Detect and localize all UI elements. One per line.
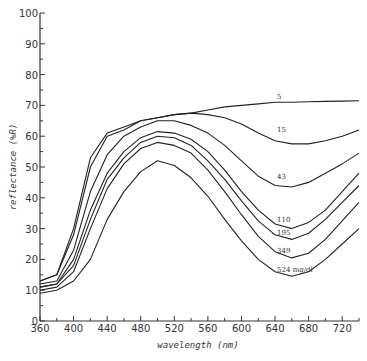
y-axis-title: reflectance (%R) [8,124,18,211]
x-tick-label: 400 [64,323,83,334]
curve-label: 43 [277,173,286,181]
y-tick-label: 80 [25,70,38,81]
x-axis-title: wavelength (nm) [157,340,238,350]
curves [40,101,359,293]
y-tick-label: 100 [19,8,38,19]
y-tick-label: 10 [25,285,38,296]
curve-5 [40,101,359,281]
curve-label: 15 [277,126,286,134]
y-tick-label: 90 [25,39,38,50]
x-tick-label: 640 [266,323,285,334]
x-tick-label: 600 [232,323,251,334]
curve-label: 524 mg/dl [277,266,314,274]
curve-label: 195 [277,229,290,237]
axes: 3604004404805205606006406807200102030405… [19,8,359,334]
x-tick-label: 680 [299,323,318,334]
x-tick-label: 720 [333,323,352,334]
curve-110 [40,132,359,288]
y-tick-label: 40 [25,193,38,204]
y-tick-label: 0 [32,316,38,327]
curve-label: 110 [277,216,290,224]
x-tick-label: 440 [98,323,117,334]
y-tick-label: 60 [25,131,38,142]
curve-15 [40,113,359,281]
y-tick-label: 70 [25,100,38,111]
x-tick-label: 560 [198,323,217,334]
reflectance-chart: 3604004404805205606006406807200102030405… [0,0,367,361]
x-tick-label: 480 [131,323,150,334]
y-tick-label: 20 [25,254,38,265]
curve-labels: 51543110195349524 mg/dl [277,93,314,273]
curve-label: 5 [277,93,281,101]
curve-195 [40,136,359,287]
x-tick-label: 520 [165,323,184,334]
y-tick-label: 30 [25,224,38,235]
curve-label: 349 [277,247,290,255]
y-tick-label: 50 [25,162,38,173]
